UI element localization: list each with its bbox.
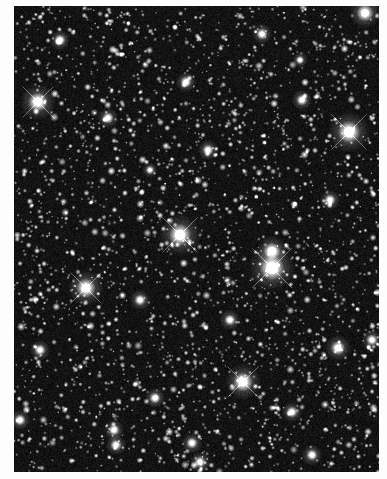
star-field-image xyxy=(14,6,379,472)
image-frame xyxy=(0,0,387,479)
